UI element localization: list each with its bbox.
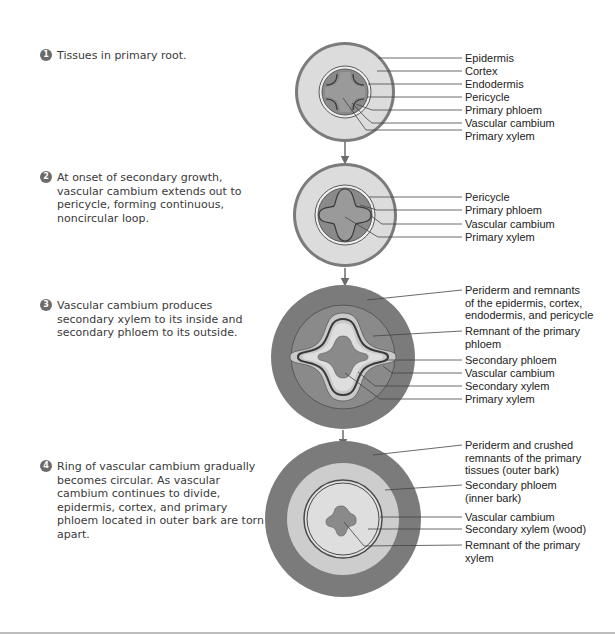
label-primary-xylem: Primary xylem	[465, 393, 535, 406]
label-pericycle: Pericycle	[465, 191, 510, 204]
label-secondary-phloem-inner-bark: Secondary phloem (inner bark)	[465, 479, 557, 504]
label-vascular-cambium: Vascular cambium	[465, 511, 555, 524]
label-secondary-xylem: Secondary xylem	[465, 380, 549, 393]
label-secondary-phloem: Secondary phloem	[465, 354, 557, 367]
label-primary-phloem: Primary phloem	[465, 204, 542, 217]
diagram-1-primary-root	[295, 42, 462, 142]
diagram-4-circular-cambium	[265, 441, 462, 597]
label-periderm-remnants: Periderm and remnants of the epidermis, …	[465, 284, 593, 322]
label-periderm-outer-bark: Periderm and crushed remnants of the pri…	[465, 439, 581, 477]
label-endodermis: Endodermis	[465, 78, 524, 91]
label-primary-xylem: Primary xylem	[465, 130, 535, 143]
label-secondary-xylem-wood: Secondary xylem (wood)	[465, 523, 586, 536]
label-remnant-primary-phloem: Remnant of the primary phloem	[465, 325, 580, 350]
label-primary-phloem: Primary phloem	[465, 104, 542, 117]
label-primary-xylem: Primary xylem	[465, 231, 535, 244]
label-vascular-cambium: Vascular cambium	[465, 218, 555, 231]
label-remnant-primary-xylem: Remnant of the primary xylem	[465, 539, 580, 564]
label-pericycle: Pericycle	[465, 91, 510, 104]
label-cortex: Cortex	[465, 65, 497, 78]
diagram-3-secondary-tissues	[271, 285, 462, 429]
label-vascular-cambium: Vascular cambium	[465, 367, 555, 380]
diagram-2-onset-secondary-growth	[293, 163, 462, 267]
label-epidermis: Epidermis	[465, 52, 514, 65]
label-vascular-cambium: Vascular cambium	[465, 117, 555, 130]
